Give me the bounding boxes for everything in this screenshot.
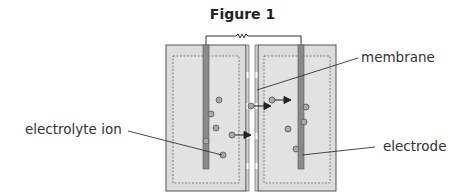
- label-membrane: membrane: [361, 49, 435, 65]
- right-half-cell: [258, 45, 336, 191]
- label-electrode: electrode: [383, 138, 446, 154]
- cell-diagram: [0, 0, 465, 194]
- external-circuit: [206, 34, 301, 46]
- resistor-icon: [236, 34, 248, 38]
- label-electrolyte-ion: electrolyte ion: [25, 121, 122, 137]
- membrane: [246, 45, 258, 191]
